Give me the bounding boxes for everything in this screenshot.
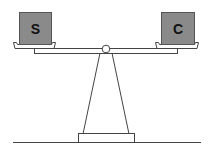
pivot-circle xyxy=(102,45,110,53)
scale-stand xyxy=(83,53,129,134)
weight-c-label: C xyxy=(173,21,183,37)
weight-s-label: S xyxy=(31,21,40,37)
scale-base xyxy=(79,134,135,143)
balance-scale-diagram: S C xyxy=(0,0,212,150)
weight-c: C xyxy=(162,13,195,45)
weight-s: S xyxy=(20,13,52,45)
